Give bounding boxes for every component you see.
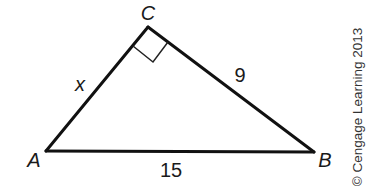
copyright-notice: © Cengage Learning 2013: [350, 28, 365, 187]
vertex-label-a: A: [26, 149, 40, 171]
vertex-label-b: B: [318, 149, 331, 171]
right-angle-marker: [133, 42, 168, 62]
right-triangle-diagram: C A B x 9 15 © Cengage Learning 2013: [0, 0, 370, 189]
side-label-ac: x: [74, 73, 86, 95]
side-ab: [46, 151, 314, 152]
side-label-ab: 15: [160, 159, 182, 181]
side-ac: [46, 27, 148, 151]
side-cb: [148, 27, 314, 152]
vertex-label-c: C: [141, 2, 156, 24]
side-label-cb: 9: [234, 64, 245, 86]
